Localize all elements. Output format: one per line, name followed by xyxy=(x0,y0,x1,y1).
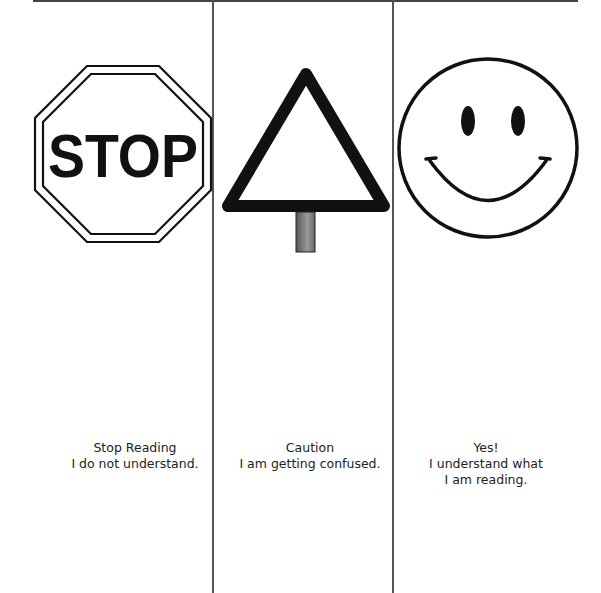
caption-yes: Yes! I understand what I am reading. xyxy=(396,440,576,488)
caption-line: I do not understand. xyxy=(45,456,225,472)
caption-stop: Stop Reading I do not understand. xyxy=(45,440,225,472)
stop-sign-icon: STOP xyxy=(33,64,213,244)
smiley-face-icon xyxy=(396,55,580,243)
caption-line: I understand what xyxy=(396,456,576,472)
caption-line: Caution xyxy=(220,440,400,456)
top-rule xyxy=(33,0,578,2)
caption-line: Yes! xyxy=(396,440,576,456)
caption-caution: Caution I am getting confused. xyxy=(220,440,400,472)
caption-line: I am getting confused. xyxy=(220,456,400,472)
svg-text:STOP: STOP xyxy=(48,121,198,190)
caption-line: I am reading. xyxy=(396,472,576,488)
caption-line: Stop Reading xyxy=(45,440,225,456)
caution-triangle-sign-icon xyxy=(218,62,394,258)
